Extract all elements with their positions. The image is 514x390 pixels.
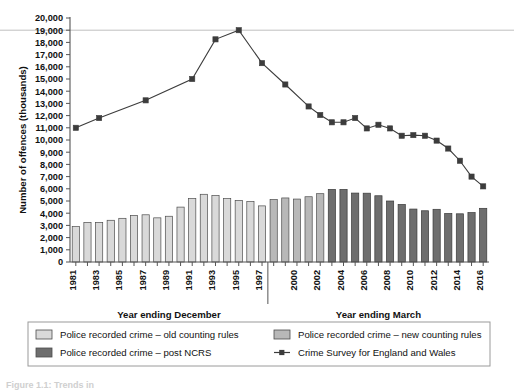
y-axis-tick-label: 16,000 — [35, 62, 63, 72]
y-axis-tick-label: 17,000 — [35, 50, 63, 60]
y-axis-tick-label: 5,000 — [40, 196, 63, 206]
csew-marker — [97, 115, 102, 120]
bar — [433, 209, 440, 262]
bar — [456, 214, 463, 262]
x-axis-title-december: Year ending December — [117, 309, 221, 320]
bar — [247, 202, 254, 262]
y-axis-tick-label: 8,000 — [40, 160, 63, 170]
legend-item-label: Police recorded crime – new counting rul… — [298, 329, 482, 340]
x-axis-title-march: Year ending March — [336, 309, 421, 320]
y-axis-tick-label: 19,000 — [35, 26, 63, 36]
csew-marker — [318, 112, 323, 117]
legend-swatch — [36, 348, 52, 357]
y-axis-tick-label: 12,000 — [35, 111, 63, 121]
legend-item[interactable]: Police recorded crime – post NCRS — [36, 347, 211, 358]
csew-marker — [73, 125, 78, 130]
csew-marker — [434, 138, 439, 143]
csew-marker — [329, 120, 334, 125]
bar — [177, 207, 184, 262]
bar — [212, 196, 219, 262]
y-axis-tick-label: 2,000 — [40, 233, 63, 243]
x-axis-tick-label: 1981 — [68, 270, 78, 290]
bar — [165, 216, 172, 262]
bar — [72, 227, 79, 262]
x-axis-tick-label: 2000 — [289, 270, 299, 290]
bar-series-old_rules — [72, 194, 265, 262]
y-axis-tick-label: 13,000 — [35, 99, 63, 109]
legend-item[interactable]: Police recorded crime – old counting rul… — [36, 329, 239, 340]
y-axis-tick-label: 18,000 — [35, 38, 63, 48]
x-axis-tick-label: 1991 — [184, 270, 194, 290]
bar — [235, 200, 242, 262]
x-axis-tick-label: 2008 — [382, 270, 392, 290]
csew-marker — [353, 115, 358, 120]
x-axis-tick-label: 1995 — [231, 270, 241, 290]
legend-item-label: Crime Survey for England and Wales — [298, 347, 456, 358]
x-axis-tick-label: 1997 — [254, 270, 264, 290]
x-axis-tick-label: 2016 — [475, 270, 485, 290]
csew-marker — [422, 133, 427, 138]
bar — [84, 222, 91, 262]
csew-marker — [481, 184, 486, 189]
csew-marker — [283, 82, 288, 87]
bar — [107, 220, 114, 262]
csew-line — [76, 30, 483, 186]
csew-marker — [446, 146, 451, 151]
bar — [95, 222, 102, 262]
bar — [328, 189, 335, 262]
csew-marker — [457, 158, 462, 163]
y-axis-tick-label: 6,000 — [40, 184, 63, 194]
legend-item[interactable]: Crime Survey for England and Wales — [274, 347, 456, 358]
csew-marker — [469, 174, 474, 179]
csew-marker — [190, 76, 195, 81]
x-axis-tick-label: 1989 — [161, 270, 171, 290]
y-axis-tick-label: 10,000 — [35, 135, 63, 145]
bar — [119, 218, 126, 262]
y-axis-tick-label: 1,000 — [40, 245, 63, 255]
legend-swatch — [274, 330, 290, 339]
csew-markers — [73, 28, 486, 189]
csew-marker — [364, 126, 369, 131]
y-axis-tick-label: 7,000 — [40, 172, 63, 182]
bar — [317, 194, 324, 262]
y-axis-tick-label: 0 — [58, 257, 63, 267]
y-axis-tick-label: 15,000 — [35, 74, 63, 84]
csew-marker — [387, 126, 392, 131]
bar — [352, 193, 359, 262]
bar — [305, 197, 312, 262]
legend-swatch-marker — [279, 350, 284, 355]
csew-marker — [213, 37, 218, 42]
legend-item[interactable]: Police recorded crime – new counting rul… — [274, 329, 482, 340]
chart-figure: 20,00019,00018,00017,00016,00015,00014,0… — [0, 0, 514, 390]
bar — [410, 209, 417, 262]
bar — [189, 199, 196, 262]
y-axis-title: Number of offences (thousands) — [17, 66, 28, 214]
bar — [468, 213, 475, 262]
y-axis-tick-label: 4,000 — [40, 209, 63, 219]
y-axis-tick-label: 20,000 — [35, 13, 63, 23]
bar — [154, 218, 161, 262]
csew-marker — [341, 120, 346, 125]
x-axis-tick-label: 1985 — [114, 270, 124, 290]
bar — [363, 193, 370, 262]
x-axis-tick-label: 2006 — [359, 270, 369, 290]
bar-series-post_ncrs — [328, 189, 487, 262]
bar — [293, 199, 300, 262]
csew-marker — [306, 104, 311, 109]
x-axis — [70, 262, 489, 266]
figure-caption: Figure 1.1: Trends in — [6, 380, 94, 390]
csew-marker — [376, 122, 381, 127]
bar — [445, 213, 452, 262]
bar — [130, 215, 137, 262]
bar — [375, 196, 382, 262]
x-axis-tick-label: 2002 — [312, 270, 322, 290]
x-axis-tick-label: 2012 — [429, 270, 439, 290]
legend-item-label: Police recorded crime – post NCRS — [60, 347, 211, 358]
crime-trends-chart: 20,00019,00018,00017,00016,00015,00014,0… — [0, 0, 514, 390]
x-axis-tick-label: 1987 — [138, 270, 148, 290]
bar — [480, 208, 487, 262]
x-axis-tick-label: 2010 — [405, 270, 415, 290]
x-axis-tick-label: 2004 — [336, 269, 346, 290]
bar — [200, 194, 207, 262]
csew-marker — [259, 61, 264, 66]
